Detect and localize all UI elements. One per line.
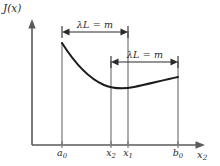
tick-label-x-one-subscript: 1: [129, 152, 133, 160]
x-axis-label-subscript: 2: [203, 153, 208, 162]
y-axis: [28, 19, 35, 145]
tick-label-b-zero: b0: [173, 148, 183, 160]
y-axis-label: J(x): [3, 3, 21, 14]
tick-label-x-one: x1: [123, 148, 133, 160]
tick-label-x-two: x2: [106, 148, 116, 160]
tick-label-x-two-subscript: 2: [112, 152, 116, 160]
tick-label-a-zero: a0: [57, 148, 67, 160]
annotation-label-lower: λL = m: [127, 50, 164, 60]
tick-label-b-zero-subscript: 0: [179, 152, 183, 160]
annotation-label-upper: λL = m: [77, 20, 114, 30]
figure-container: J(x) x2 a0 x2 x1 b0 λL = m λL = m: [0, 0, 220, 166]
x-axis-label: x2: [197, 150, 207, 161]
tick-label-a-zero-subscript: 0: [63, 152, 67, 160]
